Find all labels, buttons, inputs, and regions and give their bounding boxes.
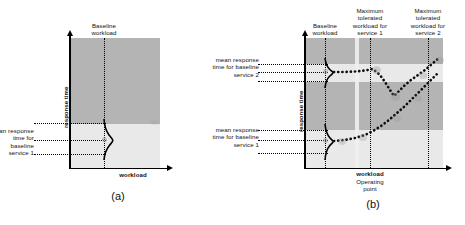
- panel-b-baseline-workload-label-line1: Baseline: [301, 22, 349, 29]
- panel-b-baseline-workload-label: Baseline workload: [301, 22, 349, 37]
- panel-a-mean-response-time-label: mean response time for baseline service …: [0, 127, 34, 157]
- panel-b-max-tolerated-service-2-label-line3: workload for: [404, 22, 452, 29]
- panel-a-y-axis: [69, 36, 70, 169]
- panel-b-mean-response-time-service-1-label-line1: mean response: [211, 126, 259, 133]
- panel-a-distribution-center-marker: [102, 137, 107, 142]
- panel-b-mean-response-time-service-1-label-line2: time for baseline: [211, 133, 259, 140]
- panel-a: response time workload Baseline workload…: [0, 0, 233, 225]
- panel-b: response time workload Baseline workload…: [233, 0, 465, 225]
- panel-b-x-axis: [304, 168, 447, 169]
- panel-a-x-axis: [69, 168, 167, 169]
- panel-b-scan-smudge-4: [436, 57, 444, 64]
- panel-b-scan-smudge-6: [359, 134, 367, 141]
- panel-b-operating-point-label-line1: Operating: [346, 178, 394, 185]
- panel-a-x-axis-arrow: [167, 165, 173, 171]
- panel-b-max-tolerated-service-2-label-line2: tolerated: [404, 14, 452, 21]
- panel-b-max-tolerated-service-1-label-line1: Maximum: [346, 7, 394, 14]
- panel-a-mean-response-time-label-line3: service 1: [0, 149, 34, 156]
- panel-b-operating-point-label: Operating point: [346, 178, 394, 193]
- panel-a-caption: (a): [98, 190, 138, 202]
- panel-a-baseline-workload-label-line1: Baseline: [79, 22, 129, 29]
- panel-b-max-tolerated-service-2-label: Maximum tolerated workload for service 2: [404, 7, 452, 37]
- panel-b-scan-smudge-2: [391, 93, 400, 101]
- panel-a-y-axis-label: response time: [62, 87, 69, 128]
- panel-b-scan-smudge-8: [414, 95, 422, 102]
- panel-b-x-axis-label: workload: [347, 170, 393, 177]
- panel-b-scan-smudge-1: [372, 66, 381, 74]
- panel-b-max-tolerated-service-1-label-line2: tolerated: [346, 14, 394, 21]
- panel-b-scan-smudge-3: [419, 72, 427, 79]
- panel-b-max-tolerated-service-1-label: Maximum tolerated workload for service 1: [346, 7, 394, 37]
- panel-a-baseline-workload-label-line2: workload: [79, 29, 129, 36]
- panel-b-x-axis-arrow: [446, 165, 452, 171]
- panel-b-caption: (b): [353, 198, 393, 210]
- panel-b-mean-response-time-service-2-label-line3: service 2: [211, 71, 259, 78]
- panel-b-y-axis: [304, 36, 305, 169]
- panel-b-mean-response-time-service-1-label-line3: service 1: [211, 141, 259, 148]
- panel-a-mean-response-time-label-line2: time for baseline: [0, 134, 34, 149]
- panel-a-x-axis-label: workload: [108, 171, 158, 178]
- panel-b-mean-response-time-service-1-label: mean response time for baseline service …: [211, 126, 259, 148]
- panel-b-y-axis-label: response time: [297, 91, 304, 132]
- panel-b-scan-smudge-5: [338, 138, 346, 145]
- figure-container: response time workload Baseline workload…: [0, 0, 465, 225]
- panel-b-max-tolerated-service-2-label-line4: service 2: [404, 29, 452, 36]
- panel-b-baseline-workload-label-line2: workload: [301, 29, 349, 36]
- panel-b-max-tolerated-service-1-label-line4: service 1: [346, 29, 394, 36]
- panel-b-max-tolerated-service-1-label-line3: workload for: [346, 22, 394, 29]
- panel-a-baseline-workload-label: Baseline workload: [79, 22, 129, 37]
- panel-b-max-tolerated-service-2-label-line1: Maximum: [404, 7, 452, 14]
- panel-a-mean-response-time-label-line1: mean response: [0, 127, 34, 134]
- panel-b-service-2-center-marker: [323, 69, 328, 74]
- panel-b-mean-response-time-service-2-label-line1: mean response: [211, 56, 259, 63]
- panel-b-scan-smudge-7: [393, 115, 401, 122]
- panel-b-mean-response-time-service-2-label: mean response time for baseline service …: [211, 56, 259, 78]
- panel-b-service-1-center-marker: [323, 138, 328, 143]
- panel-b-mean-response-time-service-2-label-line2: time for baseline: [211, 63, 259, 70]
- panel-b-operating-point-label-line2: point: [346, 185, 394, 192]
